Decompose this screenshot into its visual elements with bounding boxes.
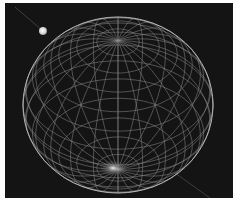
light-ray	[175, 173, 210, 198]
wireframe-sphere	[5, 3, 233, 198]
render-viewport	[5, 3, 233, 198]
light-ray	[15, 7, 43, 31]
light-source-icon	[39, 27, 47, 35]
pole-glow	[99, 160, 127, 176]
